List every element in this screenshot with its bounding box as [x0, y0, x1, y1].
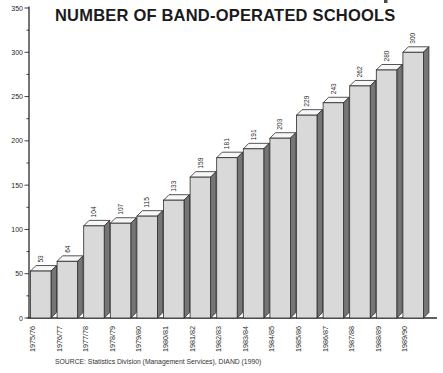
- bar-value-label: 159: [197, 157, 204, 168]
- bar-value-label: 243: [330, 83, 337, 94]
- bar-side-face: [397, 65, 403, 319]
- bar-side-face: [237, 152, 243, 318]
- source-note: SOURCE: Statistics Division (Management …: [55, 358, 261, 365]
- bar-value-label: 300: [409, 32, 416, 43]
- bar: [31, 271, 52, 318]
- bar: [243, 149, 263, 318]
- bar-value-label: 280: [383, 50, 390, 61]
- bar-side-face: [51, 266, 57, 318]
- x-category-label: 1987/88: [347, 326, 356, 352]
- x-category-label: 1984/85: [267, 326, 276, 352]
- bar-value-label: 64: [64, 245, 71, 253]
- bar: [164, 200, 185, 318]
- scan-artifact: [384, 0, 388, 3]
- bar-value-label: 53: [37, 255, 44, 263]
- y-tick-label: 300: [11, 49, 23, 56]
- bar: [376, 70, 397, 318]
- bar: [323, 103, 344, 318]
- bar-value-label: 229: [303, 95, 310, 106]
- bar-value-label: 107: [117, 203, 124, 214]
- bar-value-label: 191: [250, 129, 257, 140]
- bar-side-face: [370, 80, 376, 318]
- x-category-label: 1982/83: [214, 326, 223, 352]
- bar-value-label: 104: [90, 206, 97, 217]
- bar-side-face: [131, 218, 137, 318]
- bar-value-label: 133: [170, 180, 177, 191]
- bar-value-label: 203: [276, 118, 283, 129]
- bar: [297, 115, 318, 318]
- x-category-label: 1986/87: [321, 326, 330, 352]
- bar: [217, 158, 238, 318]
- chart-title: NUMBER OF BAND-OPERATED SCHOOLS: [55, 6, 395, 25]
- bar: [403, 52, 424, 318]
- bar: [350, 86, 371, 318]
- x-category-label: 1980/81: [161, 326, 170, 352]
- x-category-label: 1975/76: [28, 326, 37, 352]
- bar-side-face: [423, 47, 429, 318]
- bar-side-face: [157, 211, 163, 318]
- bar: [84, 226, 105, 318]
- bar: [190, 177, 211, 318]
- x-category-label: 1988/89: [374, 326, 383, 352]
- x-category-label: 1989/90: [400, 326, 409, 352]
- bar-chart: 050100150200250300350531975/76641976/771…: [0, 0, 443, 373]
- y-tick-label: 50: [15, 270, 23, 277]
- bar-value-label: 181: [223, 138, 230, 149]
- bar-value-label: 115: [143, 197, 150, 208]
- bar: [137, 216, 158, 318]
- y-tick-label: 150: [11, 182, 23, 189]
- bar-value-label: 262: [356, 66, 363, 77]
- bar-side-face: [78, 256, 84, 318]
- bar-side-face: [264, 143, 270, 318]
- bar-side-face: [211, 172, 217, 318]
- x-category-label: 1979/80: [134, 326, 143, 352]
- chart-figure: 050100150200250300350531975/76641976/771…: [0, 0, 443, 373]
- x-category-label: 1978/79: [108, 326, 117, 352]
- bar-side-face: [344, 97, 350, 318]
- bar: [110, 223, 131, 318]
- y-tick-label: 0: [19, 315, 23, 322]
- x-category-label: 1977/78: [81, 326, 90, 352]
- y-tick-label: 100: [11, 226, 23, 233]
- bar: [270, 138, 291, 318]
- x-category-label: 1976/77: [55, 326, 64, 352]
- bar-side-face: [290, 133, 296, 318]
- bar: [57, 261, 78, 318]
- y-tick-label: 350: [11, 5, 23, 12]
- y-tick-label: 250: [11, 93, 23, 100]
- bar-side-face: [104, 220, 110, 318]
- y-tick-label: 200: [11, 137, 23, 144]
- x-category-label: 1983/84: [241, 326, 250, 352]
- bar-side-face: [317, 110, 323, 318]
- x-category-label: 1981/82: [188, 326, 197, 352]
- x-category-label: 1985/86: [294, 326, 303, 352]
- bar-side-face: [184, 195, 190, 318]
